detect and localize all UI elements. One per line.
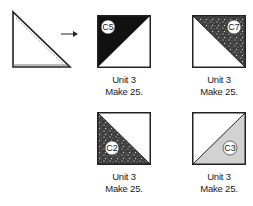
source-triangle	[11, 10, 73, 70]
arrow-right-icon	[61, 30, 79, 38]
unit-name: Unit 3	[184, 74, 253, 86]
unit-label: Unit 3 Make 25.	[89, 74, 159, 98]
unit-label: Unit 3 Make 25.	[184, 74, 253, 98]
fabric-code: C5	[101, 21, 115, 33]
unit-quantity: Make 25.	[184, 86, 253, 98]
unit-quantity: Make 25.	[89, 86, 159, 98]
unit-c3: C3	[192, 112, 246, 165]
unit-name: Unit 3	[184, 171, 253, 183]
unit-c5: C5	[97, 15, 151, 68]
unit-c2: C2	[97, 112, 151, 165]
unit-quantity: Make 25.	[184, 183, 253, 195]
fabric-code: C7	[227, 21, 241, 33]
unit-label: Unit 3 Make 25.	[89, 171, 159, 195]
unit-name: Unit 3	[89, 171, 159, 183]
unit-label: Unit 3 Make 25.	[184, 171, 253, 195]
fabric-code: C2	[105, 142, 119, 154]
unit-name: Unit 3	[89, 74, 159, 86]
fabric-code: C3	[223, 142, 237, 154]
unit-c7: C7	[192, 15, 246, 68]
unit-quantity: Make 25.	[89, 183, 159, 195]
